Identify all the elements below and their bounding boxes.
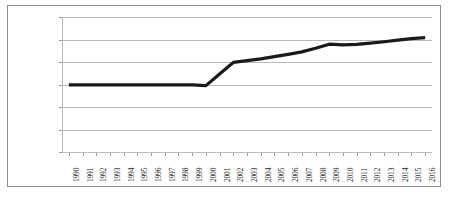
x-tick-label: 1997: [168, 168, 177, 182]
y-axis-labels: $0$10,000$20,000$30,000$40,000$50,000$60…: [0, 0, 58, 198]
x-tick-label: 2008: [319, 168, 328, 182]
x-tick-label: 2013: [387, 168, 396, 182]
x-tick-mark: [83, 153, 84, 156]
x-tick-label: 1998: [181, 168, 190, 182]
x-tick-label: 2015: [414, 168, 423, 182]
x-tick-label: 1991: [86, 168, 95, 182]
gridline: [62, 17, 432, 18]
x-tick-mark: [357, 153, 358, 156]
x-tick-mark: [124, 153, 125, 156]
x-tick-label: 2004: [264, 168, 273, 182]
x-tick-label: 2009: [332, 168, 341, 182]
x-tick-mark: [384, 153, 385, 156]
x-tick-label: 1994: [127, 168, 136, 182]
x-tick-mark: [220, 153, 221, 156]
x-tick-mark: [316, 153, 317, 156]
x-tick-label: 2001: [223, 168, 232, 182]
x-tick-mark: [165, 153, 166, 156]
x-tick-mark: [288, 153, 289, 156]
x-tick-label: 1996: [154, 168, 163, 182]
x-tick-mark: [110, 153, 111, 156]
x-tick-label: 2005: [277, 168, 286, 182]
x-tick-mark: [137, 153, 138, 156]
gridline: [62, 40, 432, 41]
x-tick-label: 2006: [291, 168, 300, 182]
x-tick-label: 2003: [250, 168, 259, 182]
x-tick-mark: [192, 153, 193, 156]
gridline: [62, 107, 432, 108]
x-tick-mark: [411, 153, 412, 156]
x-tick-label: 1992: [99, 168, 108, 182]
x-tick-mark: [261, 153, 262, 156]
x-tick-label: 1990: [72, 168, 81, 182]
x-tick-mark: [247, 153, 248, 156]
x-tick-mark: [370, 153, 371, 156]
chart-frame: [7, 5, 441, 187]
x-tick-label: 2002: [236, 168, 245, 182]
x-tick-mark: [233, 153, 234, 156]
x-tick-mark: [329, 153, 330, 156]
x-tick-mark: [302, 153, 303, 156]
x-tick-label: 1993: [113, 168, 122, 182]
x-tick-mark: [274, 153, 275, 156]
x-tick-mark: [178, 153, 179, 156]
gridline: [62, 130, 432, 131]
x-tick-label: 2010: [346, 168, 355, 182]
x-tick-label: 1999: [195, 168, 204, 182]
x-tick-label: 2011: [360, 168, 369, 182]
x-tick-mark: [96, 153, 97, 156]
x-tick-mark: [151, 153, 152, 156]
x-tick-mark: [343, 153, 344, 156]
x-tick-label: 2000: [209, 168, 218, 182]
x-tick-label: 2014: [401, 168, 410, 182]
x-tick-mark: [398, 153, 399, 156]
x-tick-label: 2012: [373, 168, 382, 182]
x-tick-mark: [69, 153, 70, 156]
gridline: [62, 62, 432, 63]
x-tick-mark: [206, 153, 207, 156]
x-tick-label: 1995: [140, 168, 149, 182]
y-axis-line: [62, 17, 63, 153]
x-tick-mark: [425, 153, 426, 156]
plot-area: [70, 23, 440, 158]
gridline: [62, 85, 432, 86]
x-tick-label: 2016: [428, 168, 437, 182]
x-tick-label: 2007: [305, 168, 314, 182]
